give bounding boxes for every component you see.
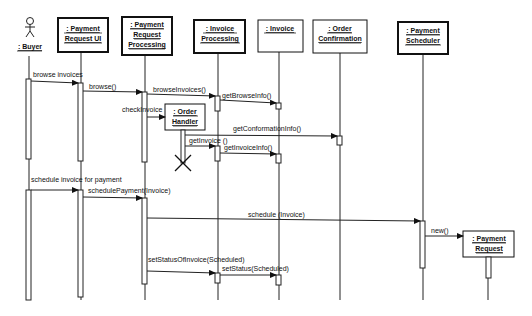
svg-text:Handler: Handler: [172, 118, 198, 125]
actor-label: : Buyer: [18, 43, 42, 51]
svg-text:getConformationInfo(): getConformationInfo(): [233, 125, 301, 133]
svg-text:: Payment: : Payment: [66, 25, 100, 33]
svg-text:: Order: : Order: [173, 108, 197, 115]
message-get-invoice: getInvoice (): [185, 137, 228, 146]
object-payment-request-processing: : Payment Request Processing: [122, 17, 172, 55]
svg-text:new(): new(): [431, 227, 449, 235]
svg-text:Request: Request: [475, 245, 503, 253]
message-new: new(): [425, 227, 463, 236]
svg-text:: Payment: : Payment: [472, 235, 506, 243]
svg-text:getInvoiceInfo(): getInvoiceInfo(): [224, 144, 272, 152]
object-order-confirmation: : Order Confirmation: [313, 20, 367, 53]
message-schedule-payment: schedulePayment(Invoice): [83, 187, 171, 198]
svg-text:: Payment: : Payment: [130, 21, 164, 29]
svg-text:schedule invoice for payment: schedule invoice for payment: [31, 176, 122, 184]
svg-text:checkInvoice: checkInvoice: [122, 106, 163, 113]
object-payment-scheduler: : Payment Scheduler: [398, 22, 448, 54]
svg-text:Request: Request: [133, 31, 161, 39]
svg-text:browseInvoices(): browseInvoices(): [153, 86, 206, 94]
svg-text:Processing: Processing: [201, 35, 239, 43]
object-invoice-processing: : Invoice Processing: [194, 20, 245, 53]
svg-text:Scheduler: Scheduler: [406, 37, 440, 44]
sequence-diagram: : Buyer : Payment Request UI : Payment R…: [0, 0, 532, 316]
message-browse: browse(): [83, 83, 142, 92]
svg-text:getInvoice (): getInvoice (): [189, 137, 228, 145]
object-payment-request-ui: : Payment Request UI: [58, 18, 108, 52]
svg-text:browse invoices: browse invoices: [33, 71, 83, 78]
object-invoice: : Invoice: [258, 20, 303, 52]
message-get-browse-info: getBrowseInfo(): [220, 92, 276, 103]
svg-text:Processing: Processing: [128, 41, 166, 49]
svg-text:: Order: : Order: [328, 25, 352, 32]
object-payment-request: : Payment Request: [463, 231, 514, 257]
svg-text:Request UI: Request UI: [65, 35, 102, 43]
svg-text:setStatusOfInvoice(Scheduled): setStatusOfInvoice(Scheduled): [148, 256, 245, 264]
message-get-conformation-info: getConformationInfo(): [185, 125, 337, 136]
message-get-invoice-info: getInvoiceInfo(): [220, 144, 276, 154]
svg-text:schedulePayment(Invoice): schedulePayment(Invoice): [88, 187, 171, 195]
object-order-handler: : Order Handler: [165, 104, 205, 130]
message-browse-invoices: browse invoices: [31, 71, 83, 83]
svg-text:: Invoice: : Invoice: [266, 25, 295, 32]
message-schedule: schedule (Invoice): [147, 211, 420, 221]
svg-text:setStatus(Scheduled): setStatus(Scheduled): [222, 265, 289, 273]
svg-text:: Invoice: : Invoice: [206, 25, 235, 32]
svg-text:getBrowseInfo(): getBrowseInfo(): [222, 92, 271, 100]
stick-figure-icon: [25, 18, 35, 38]
actor-buyer: : Buyer: [17, 18, 42, 52]
svg-text:schedule (Invoice): schedule (Invoice): [248, 211, 305, 219]
svg-text:: Payment: : Payment: [406, 27, 440, 35]
svg-text:Confirmation: Confirmation: [318, 35, 362, 42]
svg-text:browse(): browse(): [89, 83, 116, 91]
message-browse-invoices-call: browseInvoices(): [147, 86, 215, 96]
